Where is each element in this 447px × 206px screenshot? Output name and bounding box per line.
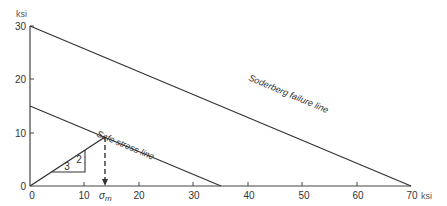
x-tick-40: 40 <box>243 190 255 201</box>
x-tick-60: 60 <box>352 190 364 201</box>
y-tick-20: 20 <box>15 74 27 85</box>
x-tick-10: 10 <box>78 190 90 201</box>
x-tick-0: 0 <box>29 190 35 201</box>
soderberg-line-label: Soderberg failure line <box>247 73 330 115</box>
x-tick-50: 50 <box>298 190 310 201</box>
x-ticks: 0 10 20 30 40 50 60 70 <box>29 182 418 201</box>
arrow-head-icon <box>102 179 108 186</box>
y-tick-10: 10 <box>15 128 27 139</box>
y-tick-0: 0 <box>20 181 26 192</box>
slope-rise-label: 2 <box>76 154 82 165</box>
x-tick-20: 20 <box>133 190 145 201</box>
y-tick-30: 30 <box>15 21 27 32</box>
sigma-m-label: σm <box>99 190 112 203</box>
x-unit-label: ksi <box>421 191 432 201</box>
x-tick-70: 70 <box>406 190 418 201</box>
slope-run-label: 3 <box>64 161 70 172</box>
stress-chart: 30 20 10 0 ksi 0 10 20 30 40 50 60 70 ks… <box>0 0 447 206</box>
soderberg-failure-line <box>30 26 411 186</box>
x-tick-30: 30 <box>188 190 200 201</box>
y-unit-label: ksi <box>16 9 27 19</box>
